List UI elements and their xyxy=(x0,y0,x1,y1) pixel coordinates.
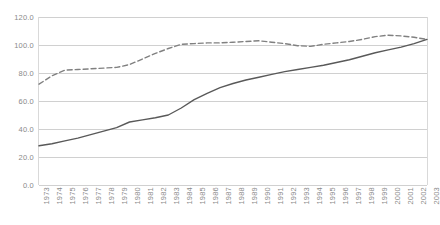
y-tick-label: 40.0 xyxy=(19,125,34,134)
x-tick-label: 1975 xyxy=(68,187,77,205)
x-tick-label: 1981 xyxy=(146,187,155,205)
series-layer xyxy=(39,17,427,185)
x-tick-label: 2002 xyxy=(419,187,428,205)
y-tick-label: 100.0 xyxy=(14,41,34,50)
x-tick-label: 1985 xyxy=(198,187,207,205)
x-tick-label: 1993 xyxy=(302,187,311,205)
line-chart: 0.020.040.060.080.0100.0120.0 1973197419… xyxy=(0,0,440,225)
x-tick-label: 1974 xyxy=(55,187,64,205)
x-tick-label: 1983 xyxy=(172,187,181,205)
y-tick-label: 0.0 xyxy=(23,181,34,190)
gridline xyxy=(39,185,427,186)
x-tick-label: 1991 xyxy=(276,187,285,205)
x-tick-label: 1973 xyxy=(42,187,51,205)
x-tick-label: 1987 xyxy=(224,187,233,205)
x-tick-label: 1990 xyxy=(263,187,272,205)
x-tick-label: 2000 xyxy=(393,187,402,205)
x-tick-label: 1988 xyxy=(237,187,246,205)
x-tick-label: 1996 xyxy=(341,187,350,205)
x-tick-label: 1989 xyxy=(250,187,259,205)
x-tick-label: 2003 xyxy=(432,187,440,205)
x-tick-label: 1978 xyxy=(107,187,116,205)
plot-area xyxy=(38,17,428,185)
y-axis: 0.020.040.060.080.0100.0120.0 xyxy=(0,17,34,185)
x-axis: 1973197419751976197719781979198019811982… xyxy=(38,187,428,225)
x-tick-label: 1997 xyxy=(354,187,363,205)
x-tick-label: 1999 xyxy=(380,187,389,205)
x-tick-label: 1986 xyxy=(211,187,220,205)
y-tick-label: 120.0 xyxy=(14,13,34,22)
x-tick-label: 1979 xyxy=(120,187,129,205)
y-tick-label: 20.0 xyxy=(19,153,34,162)
series-line-dashed-series xyxy=(39,35,427,84)
x-tick-label: 1994 xyxy=(315,187,324,205)
y-tick-label: 60.0 xyxy=(19,97,34,106)
x-tick-label: 2001 xyxy=(406,187,415,205)
x-tick-label: 1977 xyxy=(94,187,103,205)
x-tick-label: 1984 xyxy=(185,187,194,205)
x-tick-label: 1982 xyxy=(159,187,168,205)
y-tick-label: 80.0 xyxy=(19,69,34,78)
x-tick-label: 1976 xyxy=(81,187,90,205)
x-tick-label: 1992 xyxy=(289,187,298,205)
x-tick-label: 1980 xyxy=(133,187,142,205)
series-line-solid-series xyxy=(39,39,427,145)
x-tick-label: 1998 xyxy=(367,187,376,205)
x-tick-label: 1995 xyxy=(328,187,337,205)
